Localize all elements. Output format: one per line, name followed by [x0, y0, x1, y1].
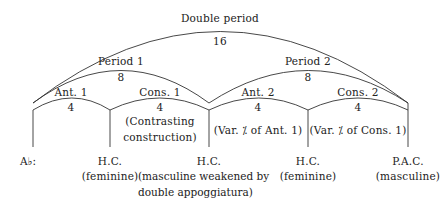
cons-2-label: Cons. 2 — [337, 86, 378, 98]
cadence-3-type: (feminine) — [280, 170, 337, 182]
cadence-1-type: (feminine) — [82, 170, 139, 182]
cons-1-label: Cons. 1 — [139, 86, 180, 98]
cons-1-note-line2: construction) — [123, 131, 197, 143]
cadence-3-name: H.C. — [296, 155, 320, 167]
ant-2-note: (Var. ⁒ of Ant. 1) — [214, 124, 303, 136]
ant-1-label: Ant. 1 — [54, 86, 87, 98]
cons-2-measures: 4 — [355, 101, 362, 113]
double-period-label: Double period — [181, 12, 259, 24]
period-2-measures: 8 — [305, 71, 312, 83]
period-1-label: Period 1 — [98, 55, 144, 67]
period-1-measures: 8 — [118, 71, 125, 83]
cadence-1-name: H.C. — [98, 155, 122, 167]
cons-1-note-line1: (Contrasting — [125, 115, 195, 127]
cons-1-measures: 4 — [157, 101, 164, 113]
double-period-measures: 16 — [213, 35, 227, 47]
cadence-2-type-line1: (masculine weakened by — [138, 170, 269, 182]
cadence-4-name: P.A.C. — [392, 155, 423, 167]
cadence-2-name: H.C. — [197, 155, 221, 167]
ant-1-measures: 4 — [68, 101, 75, 113]
cadence-4-type: (masculine) — [376, 170, 440, 182]
ant-2-label: Ant. 2 — [241, 86, 274, 98]
cons-2-note: (Var. ⁒ of Cons. 1) — [310, 124, 407, 136]
key-label: A♭: — [20, 155, 36, 167]
cadence-2-type-line2: double appoggiatura) — [138, 186, 253, 198]
period-2-label: Period 2 — [285, 55, 331, 67]
ant-2-measures: 4 — [255, 101, 262, 113]
